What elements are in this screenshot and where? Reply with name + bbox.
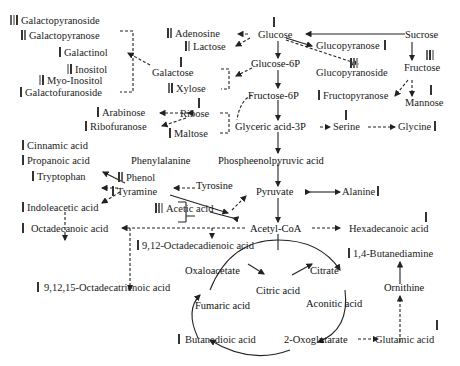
level-bars-icon [37, 282, 40, 295]
level-bars-icon [59, 47, 62, 60]
node-tyrosine: Tyrosine [196, 180, 233, 192]
level-bars-icon [318, 90, 321, 103]
node-sucrose: Sucrose [405, 29, 438, 41]
node-cinnamic-acid: Cinnamic acid [22, 140, 88, 153]
node-octadecatrienoic-acid: 9,12,15-Octadecatrienoic acid [37, 282, 170, 295]
level-bars-icon [22, 223, 25, 236]
level-bars-icon [169, 128, 172, 141]
level-bars-icon [167, 28, 173, 41]
node-propanoic-acid: Propanoic acid [22, 155, 90, 168]
level-bars-icon [168, 83, 174, 96]
level-bars-icon [22, 155, 25, 168]
node-adenosine: Adenosine [167, 28, 220, 41]
level-bars-icon [155, 203, 164, 216]
node-octadecadienoic-acid: 9,12-Octadecadienoic acid [137, 240, 254, 253]
node-butanedioic-acid: Butanedioic acid [178, 334, 256, 347]
node-citrate: Citrate [310, 265, 339, 277]
mannose-level-bar [430, 85, 432, 95]
node-galactopyranoside: Galactopyranoside [10, 15, 100, 28]
level-bars-icon [10, 15, 19, 28]
serine-level-bar [345, 110, 347, 120]
node-oxaloacetate: Oxaloacetate [185, 265, 240, 277]
level-bars-icon [178, 334, 181, 347]
level-bars-icon [118, 172, 124, 185]
node-xylose: Xylose [168, 83, 206, 96]
node-fumaric-acid: Fumaric acid [195, 300, 250, 312]
node-galactose: Galactose [152, 67, 193, 79]
node-mannose: Mannose [405, 97, 444, 109]
node-ribofuranose: Ribofuranose [85, 121, 147, 134]
level-bars-icon [22, 140, 25, 153]
node-alanine: Alanine [342, 186, 382, 199]
level-bars-icon [434, 121, 437, 134]
node-fructose: Fructose [404, 62, 440, 74]
node-galactopyranose: Galactopyranose [21, 30, 100, 43]
galactose-level-bar [180, 57, 182, 67]
node-glycine: Glycine [398, 121, 439, 134]
level-bars-icon [384, 40, 387, 53]
node-hexadecanoic-acid: Hexadecanoic acid [349, 223, 429, 235]
node-glucose: Glucose [258, 29, 292, 41]
level-bars-icon [112, 186, 115, 199]
node-glucose-6p: Glucose-6P [251, 58, 300, 70]
node-aconitic-acid: Aconitic acid [306, 298, 362, 310]
node-serine: Serine [333, 121, 360, 133]
node-butanediamine: 1,4-Butanediamine [348, 248, 433, 261]
node-tyramine: Tyramine [112, 186, 157, 199]
level-bars-icon [97, 107, 100, 120]
node-ornithine: Ornithine [384, 282, 424, 294]
hexadecanoic-level-bar [425, 212, 427, 222]
node-arabinose: Arabinose [97, 107, 145, 120]
level-bars-icon [377, 186, 380, 199]
node-acetyl-coa: Acetyl-CoA [250, 223, 301, 235]
node-tryptophan: Tryptophan [32, 171, 86, 184]
level-bars-icon [85, 121, 88, 134]
metabolic-pathway-diagram: Galactopyranoside Galactopyranose Galact… [0, 0, 460, 366]
node-phosphoenolpyruvic-acid: Phospheenolpyruvic acid [218, 155, 324, 167]
node-fructose-6p: Fructose-6P [248, 90, 299, 102]
level-bars-icon [348, 248, 351, 261]
level-bars-icon [137, 240, 140, 253]
ribose-level-bar [198, 98, 200, 108]
node-indoleacetic-acid: Indoleacetic acid [22, 202, 98, 215]
node-ribose: Ribose [180, 108, 209, 120]
node-glucopyranose: Glucopyranose [316, 40, 389, 53]
node-phenol: Phenol [118, 172, 155, 185]
node-phenylalanine: Phenylalanine [131, 155, 190, 167]
node-maltose: Maltose [169, 128, 208, 141]
level-bars-icon [32, 171, 35, 184]
node-glutamic-acid: Glutamic acid [375, 334, 434, 346]
glucose-level-bar [273, 17, 275, 27]
level-bars-icon [185, 41, 191, 54]
node-galactinol: Galactinol [59, 47, 108, 60]
level-bars-icon [21, 30, 27, 43]
level-bars-icon [22, 202, 25, 215]
level-bars-icon [20, 87, 23, 100]
node-citric-acid: Citric acid [256, 285, 300, 297]
node-fructopyranose: Fructopyranose [318, 90, 388, 103]
glutamic-level-bar [436, 320, 438, 330]
node-lactose: Lactose [185, 41, 226, 54]
node-glucopyranoside: Glucopyranoside [316, 67, 388, 79]
node-pyruvate: Pyruvate [256, 186, 293, 198]
node-octadecanoic-acid: Octadecanoic acid [22, 223, 108, 236]
node-glyceric-acid-3p: Glyceric acid-3P [235, 121, 306, 133]
node-acetic-acid: Acetic acid [155, 203, 214, 216]
node-galactofuranoside: Galactofuranoside [20, 87, 102, 100]
node-2-oxoglutarate: 2-Oxoglutarate [284, 334, 348, 346]
